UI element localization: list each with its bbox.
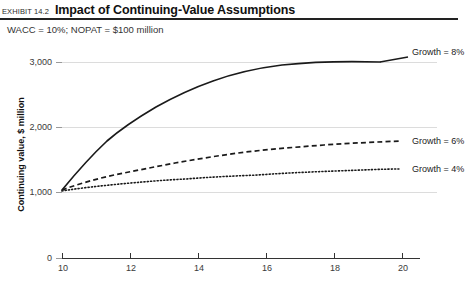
y-tick-label-1000: 1,000	[8, 188, 52, 197]
series-line-growth-4	[62, 169, 400, 191]
series-label-growth-6: Growth = 6%	[412, 137, 464, 146]
series-label-growth-8: Growth = 8%	[412, 48, 464, 57]
leader-line-growth-8	[380, 57, 408, 62]
chart-svg	[0, 0, 465, 282]
y-axis-ticks	[56, 63, 62, 259]
x-tick-label-18: 18	[320, 264, 350, 273]
series-line-growth-6	[62, 141, 400, 190]
x-axis-ticks	[63, 253, 403, 258]
y-tick-label-0: 0	[8, 254, 52, 263]
y-tick-label-2000: 2,000	[8, 123, 52, 132]
x-tick-label-10: 10	[48, 264, 78, 273]
x-tick-label-12: 12	[116, 264, 146, 273]
x-tick-label-16: 16	[252, 264, 282, 273]
gridlines	[62, 63, 437, 193]
x-tick-label-14: 14	[184, 264, 214, 273]
x-tick-label-20: 20	[388, 264, 418, 273]
exhibit-figure: EXHIBIT 14.2 Impact of Continuing-Value …	[0, 0, 465, 282]
y-tick-label-3000: 3,000	[8, 58, 52, 67]
chart-plot-area	[0, 0, 465, 282]
series-label-growth-4: Growth = 4%	[412, 165, 464, 174]
